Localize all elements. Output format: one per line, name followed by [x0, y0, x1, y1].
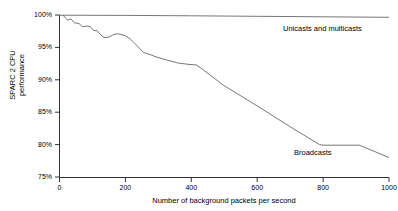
x-tick-label-200: 200	[105, 184, 145, 192]
y-tick-label-75: 75%	[26, 173, 52, 181]
y-axis-title: SPARC 2 CPU performance	[8, 27, 26, 123]
y-tick-label-100: 100%	[26, 11, 52, 19]
x-tick-label-1000: 1000	[369, 184, 398, 192]
x-axis-title: Number of background packets per second	[59, 196, 389, 205]
series-line-unicasts	[60, 15, 390, 17]
series-label-broadcasts: Broadcasts	[294, 148, 332, 157]
chart-container: 100% 95% 90% 85% 80% 75% 0 200 400 600 8…	[0, 0, 398, 211]
x-tick-label-400: 400	[171, 184, 211, 192]
y-tick-label-95: 95%	[26, 43, 52, 51]
series-label-unicasts: Unicasts and multicasts	[283, 24, 362, 33]
y-tick-label-80: 80%	[26, 141, 52, 149]
y-axis-title-line1: SPARC 2 CPU	[8, 27, 17, 123]
y-axis-ticks	[55, 15, 60, 177]
series-line-broadcasts	[63, 15, 389, 158]
y-tick-label-90: 90%	[26, 76, 52, 84]
x-tick-label-0: 0	[40, 184, 80, 192]
y-axis-title-line2: performance	[17, 27, 26, 123]
x-tick-label-800: 800	[303, 184, 343, 192]
y-tick-label-85: 85%	[26, 108, 52, 116]
x-tick-label-600: 600	[237, 184, 277, 192]
x-axis-ticks	[60, 178, 390, 183]
